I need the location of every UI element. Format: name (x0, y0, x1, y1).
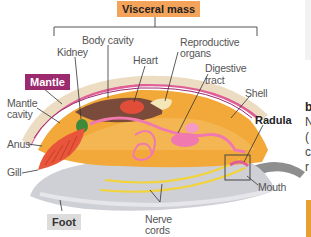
side-fragment-line: N (305, 115, 311, 130)
mantle-cavity-label-line2: cavity (7, 109, 33, 120)
radula-label: Radula (255, 114, 292, 126)
nerve-cords-label-line2: cords (145, 225, 170, 236)
side-fragment-line: c (305, 145, 311, 160)
side-fragment-line: r (305, 160, 309, 175)
anus-label: Anus (7, 139, 30, 150)
heart-label: Heart (133, 55, 158, 66)
shell-label: Shell (245, 88, 267, 99)
foot-label: Foot (47, 214, 81, 230)
digestive-label-line1: Digestive (205, 63, 246, 74)
side-fragment-heading: b (305, 100, 311, 115)
mantle-label: Mantle (25, 74, 70, 90)
gill-label: Gill (7, 167, 21, 178)
mouth-label: Mouth (258, 182, 286, 193)
visceral-mass-label: Visceral mass (117, 1, 200, 17)
mollusc-body-plan-diagram: Visceral mass Mantle Foot Radula Body ca… (0, 0, 311, 237)
kidney-label: Kidney (57, 47, 88, 58)
reproductive-label-line2: organs (180, 48, 211, 59)
body-cavity-label: Body cavity (82, 35, 134, 46)
digestive-label-line2: tract (205, 75, 224, 86)
side-fragment-line: ( (305, 130, 309, 145)
heart-shape (120, 100, 144, 114)
